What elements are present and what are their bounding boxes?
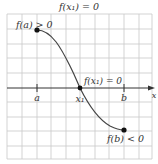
title-label: f(x₁) = 0 — [58, 1, 99, 12]
x-axis-label: x — [152, 91, 157, 100]
x1-label: x₁ — [75, 93, 84, 104]
point-x1 — [78, 86, 83, 91]
b-label: b — [121, 92, 127, 103]
point-fb — [121, 127, 126, 132]
fa-label: f(a) > 0 — [15, 19, 53, 30]
a-label: a — [34, 92, 40, 103]
fx1-label: f(x₁) = 0 — [83, 76, 122, 86]
arrow-right-icon — [148, 86, 155, 91]
fb-label: f(b) < 0 — [106, 133, 144, 144]
ivt-diagram: f(x₁) = 0 f(a) > 0 f(x₁) = — [0, 0, 158, 164]
